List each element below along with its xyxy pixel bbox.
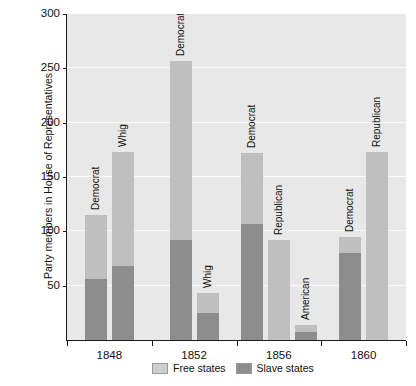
x-tick-mark-3: [321, 341, 322, 346]
chart-root: Party members in House of Representative…: [0, 0, 416, 386]
y-tick-mark-150: [63, 177, 67, 178]
y-tick-label-150: 150: [16, 170, 60, 182]
axis-ticks: 501001502002503001848185218561860: [0, 0, 416, 386]
y-tick-label-250: 250: [16, 61, 60, 73]
y-tick-mark-300: [63, 14, 67, 15]
legend-item-slave-states: Slave states: [236, 362, 314, 374]
x-tick-label-1852: 1852: [164, 349, 224, 361]
legend-swatch-free-states-icon: [152, 363, 168, 374]
x-tick-label-1848: 1848: [79, 349, 139, 361]
x-tick-mark-end: [406, 341, 407, 346]
y-tick-label-50: 50: [16, 279, 60, 291]
chart-legend: Free states Slave states: [152, 362, 314, 374]
y-tick-label-200: 200: [16, 116, 60, 128]
x-tick-label-1860: 1860: [334, 349, 394, 361]
y-tick-label-100: 100: [16, 224, 60, 236]
legend-label-free-states: Free states: [173, 362, 226, 374]
y-tick-mark-200: [63, 123, 67, 124]
legend-item-free-states: Free states: [152, 362, 226, 374]
legend-swatch-slave-states-icon: [236, 363, 252, 374]
y-tick-mark-250: [63, 68, 67, 69]
x-tick-mark-2: [237, 341, 238, 346]
x-tick-mark-0: [67, 341, 68, 346]
legend-label-slave-states: Slave states: [257, 362, 314, 374]
y-tick-mark-50: [63, 286, 67, 287]
x-tick-label-1856: 1856: [249, 349, 309, 361]
y-tick-mark-100: [63, 231, 67, 232]
y-tick-label-300: 300: [16, 7, 60, 19]
x-tick-mark-1: [152, 341, 153, 346]
